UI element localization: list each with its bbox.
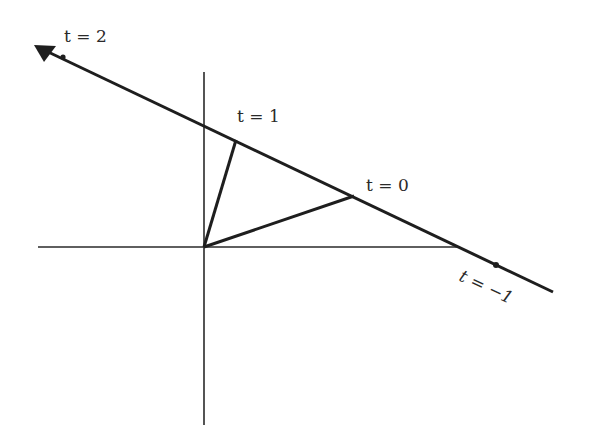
vector-to-t1 (204, 140, 236, 247)
vector-to-t0 (204, 196, 354, 247)
label-t1: t = 1 (237, 106, 280, 126)
parametric-line (44, 50, 553, 292)
point-t2-dot (60, 54, 65, 59)
label-t0: t = 0 (366, 175, 409, 195)
label-t2: t = 2 (64, 26, 107, 46)
parametric-line-diagram: t = 2 t = 1 t = 0 t = −1 (0, 0, 593, 440)
point-tneg1-dot (493, 262, 499, 268)
